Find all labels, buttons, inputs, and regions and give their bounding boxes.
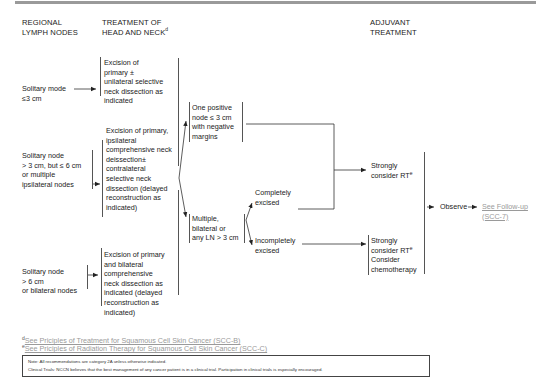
finding-one-positive-node: One positive node ≤ 3 cm with negative m… (192, 103, 234, 141)
finding-line: Multiple, (192, 214, 239, 224)
bracket-rt-chemo-left (368, 235, 369, 275)
adjuvant-line: consider RTe (371, 171, 412, 181)
treatment-line: reconstruction as (104, 298, 165, 308)
finding-line: excised (255, 198, 291, 208)
outcome-observe: Observe (440, 202, 467, 212)
bracket-node-mid (92, 150, 93, 189)
treatment-line: Excision of (104, 58, 163, 68)
treatment-line: unilateral selective (104, 77, 163, 87)
node-line: > 6 cm (22, 277, 77, 287)
adjuvant-text: consider RT (371, 171, 410, 180)
footnote-ref-e: e (410, 169, 413, 175)
node-solitary-3-to-6cm: Solitary node > 3 cm, but ≤ 6 cm or mult… (22, 151, 81, 189)
node-line: ipsilateral nodes (22, 180, 81, 190)
adjuvant-text: consider RT (371, 246, 410, 255)
bracket-tx-small (100, 57, 101, 96)
node-solitary-gt-6cm: Solitary node > 6 cm or bilateral nodes (22, 267, 77, 296)
treatment-line: selective neck (106, 174, 172, 184)
node-line: or multiple (22, 170, 81, 180)
treatment-line: primary ± (104, 68, 163, 78)
finding-line: excised (255, 246, 295, 256)
treatment-line: indicated) (104, 308, 165, 318)
treatment-line: and bilateral (104, 260, 165, 270)
finding-line: node ≤ 3 cm (192, 113, 234, 123)
treatment-unilateral: Excision of primary ± unilateral selecti… (104, 58, 163, 106)
treatment-line: Excision of primary (104, 250, 165, 260)
treatment-bilateral: Excision of primary and bilateral compre… (104, 250, 165, 317)
follow-up-link-line[interactable]: (SCC-7) (482, 212, 528, 222)
treatment-line: indicated) (106, 203, 172, 213)
adjuvant-consider-rt-chemo: Strongly consider RTe Consider chemother… (371, 236, 417, 274)
node-solitary-le-3cm: Solitary mode ≤3 cm (22, 84, 66, 103)
bracket-multiple-right (244, 214, 245, 243)
treatment-line: contralateral (106, 164, 172, 174)
footnote-ref-e: e (410, 244, 413, 250)
finding-incompletely-excised: Incompletely excised (255, 236, 295, 255)
node-line: Solitary node (22, 151, 81, 161)
bracket-tx-mid (102, 140, 103, 217)
finding-multiple-nodes: Multiple, bilateral or any LN > 3 cm (192, 214, 239, 243)
node-line: Solitary mode (22, 84, 66, 94)
bracket-one-positive-right (242, 102, 243, 142)
treatment-line: deissection± (106, 155, 172, 165)
finding-completely-excised: Completely excised (255, 188, 291, 207)
radiation-principles-link[interactable]: See Priciples of Radiation Therapy for S… (25, 344, 267, 353)
notes-box: Note: All recommendations are category 2… (22, 355, 430, 377)
treatment-line: indicated (delayed (104, 288, 165, 298)
follow-up-link-line[interactable]: See Follow-up (482, 202, 528, 212)
finding-line: margins (192, 132, 234, 142)
note-category: Note: All recommendations are category 2… (28, 359, 166, 364)
finding-line: Completely (255, 188, 291, 198)
finding-line: One positive (192, 103, 234, 113)
treatment-line: indicated (104, 96, 163, 106)
adjuvant-line: Strongly (371, 161, 412, 171)
finding-line: Incompletely (255, 236, 295, 246)
finding-line: with negative (192, 122, 234, 132)
bracket-adjuvant-right (424, 152, 425, 274)
bracket-node-large (87, 265, 88, 289)
node-line: Solitary node (22, 267, 77, 277)
adjuvant-line: consider RTe (371, 246, 417, 256)
bracket-multiple-left (189, 214, 190, 243)
bracket-col2-upper (178, 58, 179, 166)
finding-line: any LN > 3 cm (192, 233, 239, 243)
adjuvant-line: chemotherapy (371, 265, 417, 275)
adjuvant-consider-rt: Strongly consider RTe (371, 161, 412, 180)
note-clinical-trials: Clinical Trials: NCCN believes that the … (28, 367, 323, 372)
node-line: or bilateral nodes (22, 286, 77, 296)
adjuvant-line: Consider (371, 255, 417, 265)
treatment-line: Excision of primary, (106, 126, 172, 136)
treatment-line: comprehensive (104, 269, 165, 279)
treatment-line: dissection (delayed (106, 184, 172, 194)
footnote-e: eSee Priciples of Radiation Therapy for … (22, 345, 267, 353)
treatment-line: neck dissection as (104, 279, 165, 289)
see-follow-up-link[interactable]: See Follow-up (SCC-7) (482, 202, 528, 221)
finding-line: bilateral or (192, 224, 239, 234)
treatment-line: comprehensive neck (106, 145, 172, 155)
node-line: ≤3 cm (22, 94, 66, 104)
node-line: > 3 cm, but ≤ 6 cm (22, 161, 81, 171)
bracket-one-positive-left (189, 102, 190, 142)
bracket-tx-large (101, 248, 102, 306)
treatment-line: neck dissection as (104, 87, 163, 97)
treatment-ipsilateral: Excision of primary, ipsilateral compreh… (106, 126, 172, 212)
bracket-col2-lower (178, 190, 179, 295)
treatment-line: reconstruction as (106, 193, 172, 203)
treatment-line: ipsilateral (106, 136, 172, 146)
